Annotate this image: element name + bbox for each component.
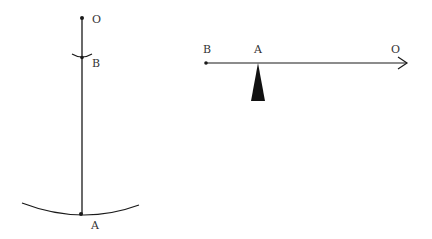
point-b <box>204 61 208 65</box>
label-o: O <box>92 13 101 26</box>
point-a <box>79 212 83 216</box>
label-b: B <box>92 57 100 70</box>
lever-figure: B A O <box>203 43 407 101</box>
point-b <box>80 56 84 60</box>
diagram-canvas: O B A B A O <box>0 0 432 239</box>
label-b: B <box>203 43 211 56</box>
fulcrum-triangle-icon <box>251 63 265 101</box>
pendulum-figure: O B A <box>22 13 139 232</box>
label-a: A <box>253 43 263 56</box>
point-o <box>80 16 84 20</box>
label-a: A <box>90 219 100 232</box>
label-o: O <box>391 43 400 56</box>
